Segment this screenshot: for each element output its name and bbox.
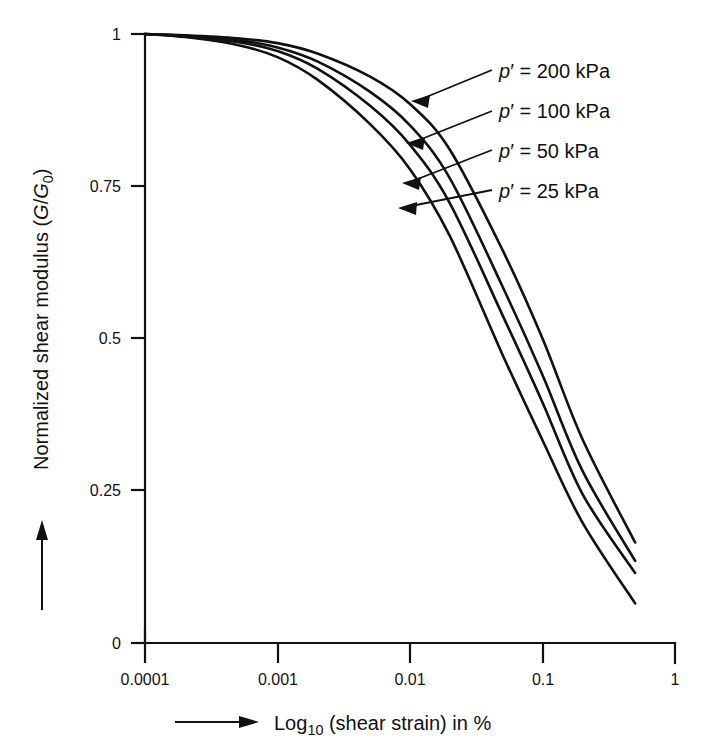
series-label-group: p′ = 200 kPa p′ = 100 kPa p′ = 50 kPa p′… [498, 60, 611, 202]
y-direction-arrow-head [36, 520, 48, 540]
y-axis-title: Normalized shear modulus (G/G0) [30, 169, 56, 470]
y-tick-label-0: 0 [112, 635, 121, 652]
arrow-head-p-25 [398, 202, 417, 215]
series-label-p-100: p′ = 100 kPa [498, 100, 611, 122]
shear-modulus-degradation-chart: 1 0.75 0.5 0.25 0 0.0001 0.001 0.01 0.1 … [0, 0, 703, 744]
leader-line-p-50 [410, 150, 492, 182]
x-direction-arrow-head [239, 716, 259, 728]
x-tick-label-0.0001: 0.0001 [121, 671, 170, 688]
series-label-p-200: p′ = 200 kPa [498, 60, 611, 82]
x-tick-group: 0.0001 0.001 0.01 0.1 1 [121, 630, 680, 688]
x-tick-label-0.001: 0.001 [258, 671, 298, 688]
arrow-head-p-100 [406, 137, 425, 150]
y-axis-title-group: Normalized shear modulus (G/G0) [30, 169, 56, 610]
x-axis-title-group: Log10 (shear strain) in % [175, 712, 491, 738]
chart-figure: 1 0.75 0.5 0.25 0 0.0001 0.001 0.01 0.1 … [0, 0, 703, 744]
x-tick-label-0.1: 0.1 [532, 671, 554, 688]
x-tick-label-0.01: 0.01 [394, 671, 425, 688]
y-tick-group: 1 0.75 0.5 0.25 0 [90, 26, 145, 652]
leader-line-p-200 [419, 70, 492, 100]
x-axis-title: Log10 (shear strain) in % [274, 712, 491, 738]
y-tick-label-0.75: 0.75 [90, 178, 121, 195]
y-tick-label-0.25: 0.25 [90, 482, 121, 499]
arrow-head-p-50 [402, 177, 421, 190]
axis-group [145, 34, 675, 663]
series-label-p-25: p′ = 25 kPa [498, 180, 600, 202]
series-label-p-50: p′ = 50 kPa [498, 140, 600, 162]
y-tick-label-1: 1 [112, 26, 121, 43]
leader-line-p-100 [414, 111, 492, 142]
y-tick-label-0.5: 0.5 [99, 330, 121, 347]
x-tick-label-1: 1 [671, 671, 680, 688]
